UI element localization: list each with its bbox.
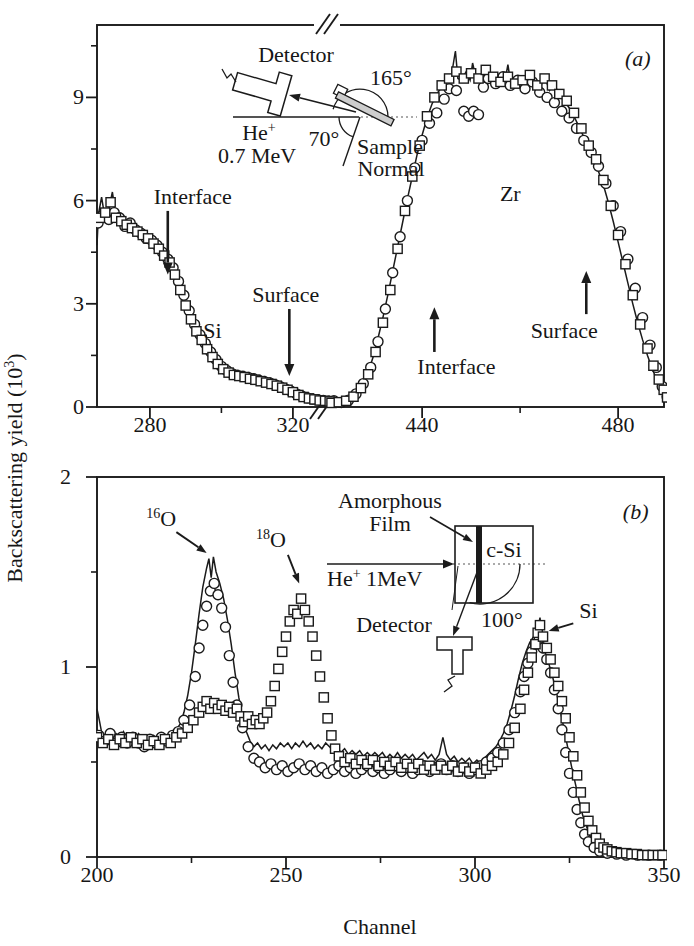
y-tick-label: 2 [60,464,71,489]
data-point-square [649,361,658,370]
film-pointer-arrow-shaft [430,517,464,537]
data-point-square [573,771,582,780]
beam-energy-label: 0.7 MeV [218,143,296,168]
data-point-square [584,816,593,825]
data-point-square [266,697,275,706]
data-point-square [547,81,556,90]
data-point-square [592,155,601,164]
data-point-square [614,230,623,239]
annotation-o16-label: 16O [146,505,176,531]
label-text: Interface [154,184,232,209]
data-point-square [554,681,563,690]
data-point-square [371,347,380,356]
label-text: Interface [417,354,495,379]
data-point-circle [451,86,461,96]
data-point-circle [185,700,195,710]
data-point-square [504,738,513,747]
label-text: Zr [500,181,521,206]
label-text: Detector [258,42,334,67]
scatter-angle-label: 100° [481,607,523,632]
detector-label: Detector [258,42,334,67]
data-point-square [599,175,608,184]
detector-body [229,61,292,116]
y-axis-title: Backscattering yield (103) [1,353,27,582]
annotation-arrow-head [196,544,206,553]
data-point-circle [395,232,405,242]
annotation-arrow-head [581,271,591,283]
label-text: 1MeV [361,566,423,591]
annotation-arrow-head [292,573,299,584]
data-point-square [106,198,115,207]
annotation-arrow-head [429,307,439,319]
inset-geometry-a: Detector165°He+0.7 MeV70°SampleNormal [218,42,425,181]
label-text: Si [579,598,597,623]
data-point-square [393,244,402,253]
amorphous-film-bar [476,526,482,603]
label-sup: 18 [256,526,270,542]
label-text: c-Si [486,537,521,562]
x-tick-label: 250 [270,862,303,887]
data-point-circle [221,622,231,632]
data-point-square [327,731,336,740]
data-point-square [378,318,387,327]
annotation-arrow-shaft [288,555,296,574]
data-point-square [628,291,637,300]
data-point-circle [209,578,219,588]
film-pointer-arrow-head [463,534,473,542]
substrate-label: c-Si [486,537,521,562]
data-point-circle [190,672,200,682]
incidence-angle-label: 70° [309,126,340,151]
annotation-panel-letter: (a) [625,46,651,71]
data-point-square [422,112,431,121]
label-text: (a) [625,46,651,71]
beam-label: He+ 1MeV [327,565,422,591]
data-point-circle [402,196,412,206]
label-text: He [242,120,268,145]
annotation-zr-label: Zr [500,181,521,206]
data-point-square [297,594,306,603]
beam-arrow-head [443,560,454,569]
sample-normal-label-2: Normal [357,156,424,181]
data-point-square [523,668,532,677]
y-tick-label: 0 [60,844,71,869]
data-point-square [323,714,332,723]
label-sup: + [268,119,276,135]
data-point-square [499,750,508,759]
label-text: 9 [73,84,84,109]
label-text: (b) [623,499,649,524]
annotation-interface-right: Interface [417,354,495,379]
label-text: Film [369,511,411,536]
data-point-square [658,851,667,860]
data-point-square [101,208,110,217]
label-text: 250 [270,862,303,887]
label-text: 300 [459,862,492,887]
annotation-arrow-shaft [176,532,198,547]
data-point-circle [388,268,398,278]
data-point-square [308,632,317,641]
data-point-square [606,201,615,210]
label-text: Surface [531,318,598,343]
label-text: 1 [60,654,71,679]
panel-b: 01220025030035016O18OSi(b)AmorphousFilmc… [60,464,681,887]
data-point-square [542,643,551,652]
data-point-square [400,206,409,215]
data-point-square [304,617,313,626]
label-text: 0.7 MeV [218,143,296,168]
data-point-circle [213,590,223,600]
label-text: O [160,506,176,531]
label-text: 2 [60,464,71,489]
label-text: Normal [357,156,424,181]
data-point-square [580,803,589,812]
sample-bar [332,84,397,126]
panel-a: 0369280320440480InterfaceSurfaceSiZrInte… [73,14,672,437]
data-point-circle [198,620,208,630]
annotation-surface-left: Surface [252,282,319,307]
label-text: 6 [73,188,84,213]
x-tick-label: 280 [133,412,166,437]
data-point-square [312,651,321,660]
data-point-square [474,74,483,83]
chart-canvas: 0369280320440480InterfaceSurfaceSiZrInte… [0,0,694,946]
data-point-circle [373,337,383,347]
data-point-square [584,141,593,150]
data-point-square [349,392,358,401]
